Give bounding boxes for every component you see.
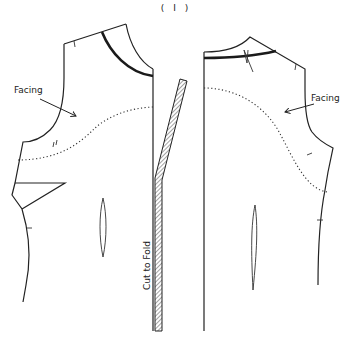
pattern-diagram: ( I ) Facing Cut to F	[0, 0, 351, 340]
right-armhole-notch	[307, 153, 312, 155]
figure-label: ( I )	[161, 3, 191, 13]
fold-hatched-strip	[155, 79, 187, 331]
right-waist-dart	[252, 205, 257, 290]
shoulder-notch	[74, 41, 75, 47]
left-facing-line	[17, 107, 153, 160]
left-facing-label: Facing	[14, 85, 43, 95]
right-outline	[204, 37, 333, 331]
right-facing-label: Facing	[311, 93, 340, 103]
fold-label: Cut to Fold	[142, 241, 152, 290]
right-facing-line	[204, 88, 328, 192]
right-facing-arrow	[285, 104, 314, 112]
left-bodice-piece: Facing	[12, 24, 153, 331]
left-facing-arrow	[40, 99, 76, 116]
right-bodice-piece: Facing	[204, 37, 340, 331]
right-neck-dart	[244, 50, 253, 72]
left-waist-dart	[100, 198, 106, 257]
left-side-dart	[15, 183, 65, 209]
fold-strip: Cut to Fold	[142, 79, 187, 331]
armhole-notch-2	[56, 140, 57, 145]
right-shoulder-notch	[295, 64, 296, 70]
left-neck-seam	[102, 32, 153, 76]
armhole-notch-1	[53, 142, 54, 147]
